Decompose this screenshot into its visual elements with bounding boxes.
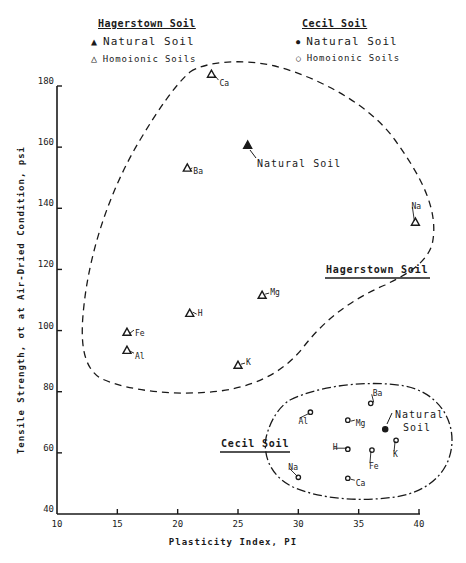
open-circle-marker [394, 438, 398, 442]
point-label: Al [298, 417, 308, 426]
open-triangle-marker [123, 328, 131, 335]
x-tick-label: 25 [233, 519, 244, 529]
ticks: 10152025303540406080100120140160180 [38, 76, 425, 529]
point-label: Na [288, 463, 298, 472]
x-tick-label: 15 [112, 519, 123, 529]
hagerstown-natural-leader [250, 150, 256, 158]
y-tick-label: 80 [43, 382, 54, 392]
open-triangle-marker [411, 218, 419, 225]
open-triangle-marker [234, 361, 242, 368]
point-leader-line [193, 312, 197, 314]
hagerstown-region-label: Hagerstown Soil [326, 264, 428, 275]
open-triangle-marker [258, 291, 266, 298]
point-label: Ca [356, 479, 366, 488]
open-triangle-marker [123, 346, 131, 353]
cecil-natural-label-line2: Soil [403, 422, 431, 433]
open-circle-marker [369, 401, 373, 405]
axes [57, 86, 420, 514]
point-label: Al [135, 352, 145, 361]
open-circle-marker [346, 418, 350, 422]
point-label: Na [411, 202, 421, 211]
point-leader-line [265, 293, 269, 294]
point-leader-line [241, 363, 245, 364]
point-label: K [393, 450, 398, 459]
filled-circle-marker [383, 427, 388, 432]
cecil-natural-leader [387, 413, 392, 424]
chart-plot: 10152025303540406080100120140160180 Hage… [0, 0, 466, 563]
open-circle-marker [346, 447, 350, 451]
hagerstown-boundary [82, 62, 434, 393]
cecil-region-label: Cecil Soil [221, 438, 289, 449]
open-triangle-marker [207, 70, 215, 77]
open-circle-marker [370, 448, 374, 452]
x-tick-label: 10 [52, 519, 63, 529]
point-label: Fe [135, 329, 145, 338]
data-points: CaBaNaMgHFeAlKBaAlMgKHFeNaCa [123, 70, 421, 488]
open-circle-marker [346, 476, 350, 480]
point-leader-line [130, 330, 134, 333]
point-label: H [198, 309, 203, 318]
x-tick-label: 35 [353, 519, 364, 529]
y-tick-label: 160 [38, 137, 54, 147]
x-tick-label: 20 [172, 519, 183, 529]
y-tick-label: 180 [38, 76, 54, 86]
y-tick-label: 140 [38, 198, 54, 208]
y-tick-label: 60 [43, 443, 54, 453]
point-label: Ba [193, 167, 203, 176]
open-triangle-marker [183, 164, 191, 171]
point-label: H [333, 443, 338, 452]
point-label: K [246, 358, 251, 367]
point-leader-line [351, 479, 355, 480]
y-tick-label: 120 [38, 259, 54, 269]
y-tick-label: 100 [38, 321, 54, 331]
x-tick-label: 40 [414, 519, 425, 529]
point-label: Mg [356, 419, 366, 428]
filled-triangle-marker [244, 141, 252, 148]
y-tick-label: 40 [43, 504, 54, 514]
point-label: Fe [369, 462, 379, 471]
cecil-natural-label-line1: Natural [395, 409, 444, 420]
x-tick-label: 30 [293, 519, 304, 529]
hagerstown-natural-label: Natural Soil [257, 158, 341, 169]
point-label: Ba [373, 389, 383, 398]
point-leader-line [190, 168, 192, 169]
point-label: Ca [219, 79, 229, 88]
point-leader-line [351, 420, 355, 421]
point-label: Mg [270, 288, 280, 297]
open-triangle-marker [186, 309, 194, 316]
